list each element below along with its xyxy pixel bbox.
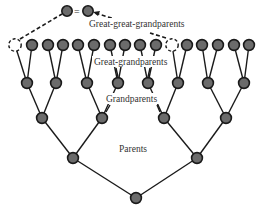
- ancestor-node: [197, 40, 208, 51]
- ancestor-node: [120, 40, 131, 51]
- ancestor-node: [27, 40, 38, 51]
- equals-sign: =: [74, 6, 80, 17]
- ancestor-node: [221, 113, 232, 124]
- grandparents-row: [37, 113, 232, 124]
- ancestor-node: [62, 6, 72, 16]
- label-great-grandparents: Great-grandparents: [94, 57, 168, 67]
- ancestor-node: [229, 40, 240, 51]
- ancestor-node: [203, 78, 214, 89]
- ancestor-node: [83, 6, 93, 16]
- label-parents: Parents: [119, 144, 147, 154]
- ancestor-node: [82, 78, 93, 89]
- great-grandparents-row: [22, 78, 250, 89]
- ancestor-node: [97, 113, 108, 124]
- great-great-grandparents-row: [9, 39, 255, 51]
- ancestor-node: [68, 153, 79, 164]
- child-node: [131, 193, 142, 204]
- same-ancestor-nodes: =: [62, 6, 93, 17]
- parents-row: [68, 153, 203, 164]
- ancestor-node: [159, 113, 170, 124]
- ancestor-node: [182, 40, 193, 51]
- ancestor-node: [173, 78, 184, 89]
- ancestor-node: [239, 78, 250, 89]
- ancestor-node: [51, 78, 62, 89]
- ancestor-node: [151, 40, 162, 51]
- ancestor-node: [192, 153, 203, 164]
- ancestor-node: [135, 40, 146, 51]
- pedigree-diagram: =: [0, 0, 261, 211]
- label-grandparents: Grandparents: [106, 94, 157, 104]
- ancestor-node: [58, 40, 69, 51]
- ancestor-node: [244, 40, 255, 51]
- ancestor-node: [37, 113, 48, 124]
- duplicate-ancestor-node: [9, 39, 21, 51]
- ancestor-node: [113, 78, 124, 89]
- label-great-great-grandparents: Great-great-grandparents: [89, 19, 185, 29]
- ancestor-node: [22, 78, 33, 89]
- ancestor-node: [143, 78, 154, 89]
- ancestor-node: [89, 40, 100, 51]
- ancestor-node: [73, 40, 84, 51]
- ancestor-node: [213, 40, 224, 51]
- ancestor-node: [43, 40, 54, 51]
- ancestor-node: [105, 40, 116, 51]
- edges: [15, 45, 249, 198]
- duplicate-ancestor-node: [166, 39, 178, 51]
